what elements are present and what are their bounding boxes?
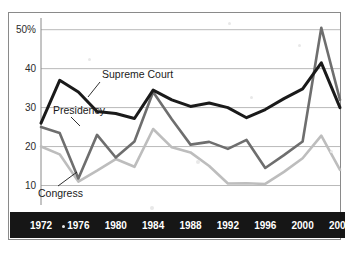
- x-tick-label: 2004: [329, 220, 351, 231]
- annotation-presidency-label: Presidency: [53, 104, 106, 116]
- x-tick-label: 1980: [105, 220, 128, 231]
- y-axis-tick-labels: 1020304050%: [16, 24, 36, 191]
- x-tick-label: 2000: [292, 220, 315, 231]
- y-tick-label: 20: [25, 141, 37, 152]
- y-tick-label: 50%: [16, 24, 36, 35]
- series-congress-line: [41, 129, 340, 184]
- x-tick-label: 1972: [30, 220, 53, 231]
- x-tick-label: 1996: [254, 220, 277, 231]
- y-tick-label: 30: [25, 102, 37, 113]
- annotation-presidency: Presidency: [53, 104, 106, 126]
- y-tick-label: 10: [25, 180, 37, 191]
- x-tick-label: 1984: [142, 220, 165, 231]
- x-tick-label: 1992: [217, 220, 240, 231]
- annotation-congress-label: Congress: [38, 187, 83, 199]
- annotation-supreme-court-label: Supreme Court: [102, 68, 173, 80]
- confidence-line-chart: 1020304050% 1972197619801984198819921996…: [0, 0, 351, 254]
- x-axis-tick-labels: 197219761980198419881992199620002004: [30, 220, 351, 231]
- y-tick-label: 40: [25, 63, 37, 74]
- x-tick-label: 1988: [179, 220, 202, 231]
- x-tick-label: 1976: [67, 220, 90, 231]
- chart-root: 1020304050% 1972197619801984198819921996…: [0, 0, 351, 254]
